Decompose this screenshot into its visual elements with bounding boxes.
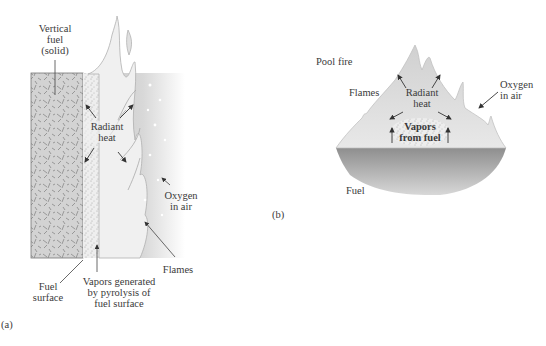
label-line: Vapors generated [74, 276, 164, 287]
label-line: Oxygen [500, 79, 533, 90]
label-radiant-heat-b: Radiant heat [397, 87, 447, 109]
label-pool-fire: Pool fire [316, 56, 352, 67]
vapor-layer [83, 73, 99, 258]
label-line: Vertical [30, 23, 80, 34]
label-line: heat [397, 98, 447, 109]
label-line: Oxygen [160, 190, 202, 201]
solid-fuel-block [31, 73, 83, 258]
label-flames-a: Flames [158, 264, 198, 275]
label-line: surface [28, 292, 68, 303]
label-line: by pyrolysis of [74, 287, 164, 298]
label-line: Vapors [395, 121, 445, 132]
label-radiant-heat-a: Radiant heat [84, 121, 130, 143]
panel-label-b: (b) [272, 209, 284, 220]
flame-tip [127, 30, 132, 55]
panel-label-a: (a) [1, 319, 13, 330]
label-vertical-fuel: Vertical fuel (solid) [30, 23, 80, 56]
label-line: fuel [30, 34, 80, 45]
label-oxygen-b: Oxygen in air [500, 79, 533, 101]
label-line: Radiant [84, 121, 130, 132]
label-vapors-generated: Vapors generated by pyrolysis of fuel su… [74, 276, 164, 309]
label-line: (solid) [30, 45, 80, 56]
label-line: fuel surface [74, 298, 164, 309]
label-fuel-surface: Fuel surface [28, 281, 68, 303]
label-line: Fuel [28, 281, 68, 292]
label-line: heat [84, 132, 130, 143]
label-line: from fuel [395, 132, 445, 143]
label-fuel-b: Fuel [346, 185, 365, 196]
label-oxygen-a: Oxygen in air [160, 190, 202, 212]
label-line: in air [500, 90, 533, 101]
vertical-fire-figure [31, 16, 185, 283]
label-line: in air [160, 201, 202, 212]
label-line: Radiant [397, 87, 447, 98]
label-flames-b: Flames [349, 87, 379, 98]
oxygen-arrow-b [479, 92, 498, 108]
label-vapors-from-fuel: Vapors from fuel [395, 121, 445, 143]
